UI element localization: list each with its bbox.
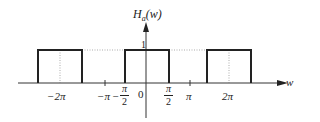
y-label-arg: (w) <box>146 7 162 21</box>
x-tick-neg-half-pi: π 2 <box>120 84 129 107</box>
frac-denominator: 2 <box>166 97 171 107</box>
y-axis-arrow-icon <box>143 22 149 32</box>
y-tick-1: 1 <box>141 40 146 50</box>
frac-denominator: 2 <box>122 97 127 107</box>
x-tick-neg-half-pi-sign: − <box>112 91 119 102</box>
pulse-0 <box>125 50 169 83</box>
x-tick-pi: π <box>186 91 192 102</box>
x-tick-2pi: 2π <box>222 91 233 102</box>
x-tick-neg-2pi: −2π <box>47 91 65 102</box>
y-label-main: H <box>133 7 142 21</box>
x-tick-half-pi: π 2 <box>164 84 173 107</box>
y-axis-label: Ha(w) <box>133 8 162 23</box>
frac-numerator: π <box>122 84 127 94</box>
x-tick-neg-pi: −π <box>97 91 110 102</box>
x-tick-0: 0 <box>138 89 144 100</box>
x-axis-label: w <box>286 77 293 88</box>
frac-numerator: π <box>166 84 171 94</box>
